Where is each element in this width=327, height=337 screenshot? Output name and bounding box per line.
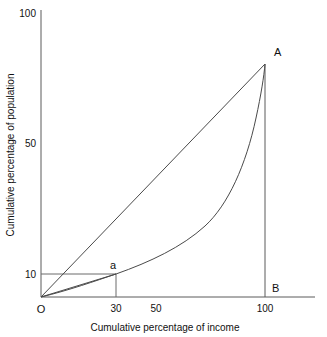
y-tick-label-10: 10 [25,269,37,280]
x-axis-title: Cumulative percentage of income [91,322,240,333]
annotation-label-a-lower: a [110,259,117,271]
x-tick-label-100: 100 [257,303,274,314]
x-tick-label-origin: O [37,303,46,315]
annotation-label-b: B [272,282,279,294]
line-of-equality [41,64,265,297]
lorenz-curve-figure: 100 50 10 O 30 50 100 A B a Cumulative p… [0,0,327,337]
x-tick-label-30: 30 [110,303,122,314]
chart-canvas: 100 50 10 O 30 50 100 A B a Cumulative p… [0,0,327,337]
y-tick-label-50: 50 [25,138,37,149]
x-tick-label-50: 50 [150,303,162,314]
y-axis-title: Cumulative percentage of population [5,74,16,237]
annotation-label-a-upper: A [274,46,282,58]
y-tick-label-100: 100 [19,8,36,19]
